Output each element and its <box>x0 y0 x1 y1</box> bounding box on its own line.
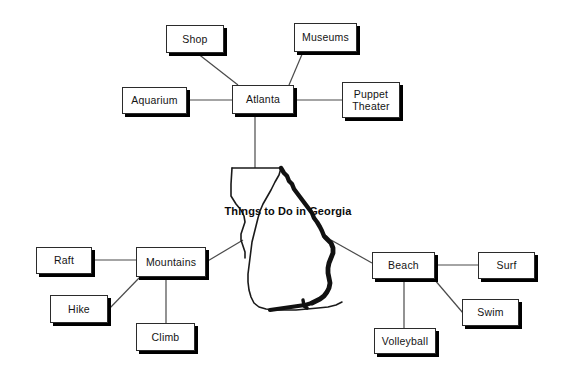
node-hike-label: Hike <box>68 303 90 315</box>
concept-map-canvas: Things to Do in Georgia Shop Museums Aqu… <box>0 0 571 380</box>
node-shop[interactable]: Shop <box>166 25 224 53</box>
node-aquarium-label: Aquarium <box>131 94 178 106</box>
node-hike[interactable]: Hike <box>50 295 108 323</box>
node-volleyball[interactable]: Volleyball <box>374 328 436 354</box>
node-mountains-label: Mountains <box>146 256 196 268</box>
node-beach[interactable]: Beach <box>372 252 435 279</box>
node-beach-label: Beach <box>388 259 419 271</box>
node-mountains[interactable]: Mountains <box>136 247 206 277</box>
node-volleyball-label: Volleyball <box>382 335 428 347</box>
node-swim[interactable]: Swim <box>462 299 519 326</box>
node-museums[interactable]: Museums <box>294 23 357 52</box>
node-raft[interactable]: Raft <box>36 247 92 274</box>
center-title: Things to Do in Georgia <box>218 205 358 217</box>
node-climb[interactable]: Climb <box>136 323 195 351</box>
node-climb-label: Climb <box>152 331 180 343</box>
node-atlanta-label: Atlanta <box>246 93 280 105</box>
node-atlanta[interactable]: Atlanta <box>232 85 294 114</box>
node-surf[interactable]: Surf <box>478 252 535 279</box>
node-puppet-theater[interactable]: Puppet Theater <box>342 82 400 118</box>
node-swim-label: Swim <box>477 306 503 318</box>
node-surf-label: Surf <box>496 259 516 271</box>
node-shop-label: Shop <box>182 33 207 45</box>
node-aquarium[interactable]: Aquarium <box>122 87 187 114</box>
node-puppet-theater-label-line1: Puppet <box>354 88 388 100</box>
node-puppet-theater-label-line2: Theater <box>352 100 390 112</box>
node-raft-label: Raft <box>54 254 74 266</box>
node-museums-label: Museums <box>302 31 349 43</box>
